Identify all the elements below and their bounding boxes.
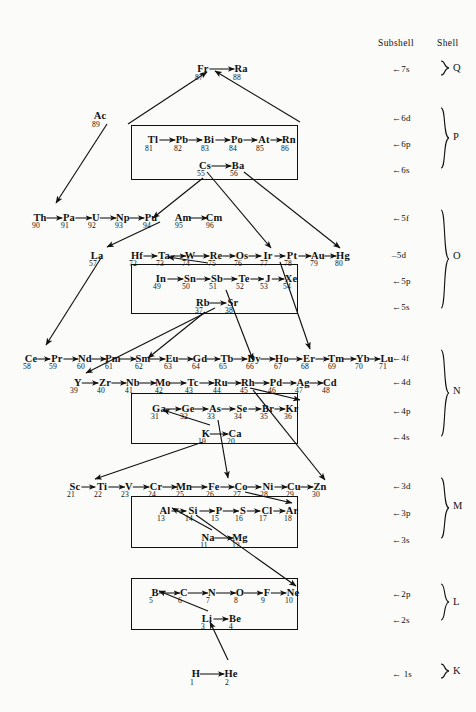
atomic-number: 60: [77, 363, 85, 371]
atomic-number: 78: [284, 260, 292, 268]
subshell-label-4p: ←4p: [392, 406, 411, 416]
shell-letter-N: N: [453, 385, 461, 396]
atomic-number: 4: [229, 623, 233, 631]
atomic-number: 33: [207, 413, 215, 421]
atomic-number: 63: [164, 363, 172, 371]
subshell-label-1s: ← 1s: [392, 669, 412, 679]
shell-brace-N: [440, 349, 452, 437]
atomic-number: 55: [197, 170, 205, 178]
atomic-number: 42: [155, 387, 163, 395]
atomic-number: 12: [232, 542, 240, 550]
shell-brace-K: [440, 663, 452, 679]
atomic-number: 68: [301, 363, 309, 371]
subshell-label-6s: ←6s: [392, 165, 410, 175]
atomic-number: 86: [281, 145, 289, 153]
atomic-number: 23: [121, 491, 129, 499]
atomic-number: 83: [201, 145, 209, 153]
atomic-number: 21: [67, 491, 75, 499]
atomic-number: 45: [240, 387, 248, 395]
atomic-number: 49: [153, 283, 161, 291]
subshell-label-6d: ←6d: [392, 113, 411, 123]
atomic-number: 17: [259, 515, 267, 523]
shell-letter-Q: Q: [453, 62, 461, 73]
atomic-number: 46: [268, 387, 276, 395]
subshell-label-3p: ←3p: [392, 508, 411, 518]
arrow-5f-to-6d: [56, 124, 107, 203]
atomic-number: 9: [261, 597, 265, 605]
atomic-number: 48: [322, 387, 330, 395]
atomic-number: 30: [312, 491, 320, 499]
shell-letter-O: O: [453, 250, 461, 261]
atomic-number: 51: [209, 283, 217, 291]
atomic-number: 25: [176, 491, 184, 499]
atomic-number: 1: [190, 679, 194, 687]
atomic-number: 75: [208, 260, 216, 268]
subshell-label-7s: ←7s: [392, 64, 410, 74]
atomic-number: 5: [149, 597, 153, 605]
atomic-number: 96: [206, 222, 214, 230]
subshell-label-5s: ←5s: [392, 302, 410, 312]
arrow-4f-to-5d: [46, 258, 101, 345]
atomic-number: 44: [213, 387, 221, 395]
atomic-number: 66: [246, 363, 254, 371]
atomic-number: 41: [125, 387, 133, 395]
atomic-number: 95: [175, 222, 183, 230]
atomic-number: 7: [206, 597, 210, 605]
atomic-number: 34: [234, 413, 242, 421]
shell-letter-P: P: [453, 131, 459, 142]
subshell-label-2s: ←2s: [392, 615, 410, 625]
atomic-number: 38: [225, 307, 233, 315]
atomic-number: 2: [225, 679, 229, 687]
atomic-number: 89: [92, 121, 100, 129]
atomic-number: 40: [97, 387, 105, 395]
subshell-label-6p: ←6p: [392, 139, 411, 149]
atomic-number: 43: [185, 387, 193, 395]
shell-column-header: Shell: [437, 38, 459, 48]
atomic-number: 65: [219, 363, 227, 371]
atomic-number: 28: [260, 491, 268, 499]
atomic-number: 57: [89, 260, 97, 268]
atomic-number: 67: [274, 363, 282, 371]
atomic-number: 29: [286, 491, 294, 499]
arrow-4s-to-3d: [95, 442, 203, 479]
shell-brace-O: [440, 209, 452, 309]
arrow-5d-to-6s: [207, 172, 271, 248]
atomic-number: 18: [284, 515, 292, 523]
subshell-column-header: Subshell: [378, 38, 414, 48]
subshell-label-5f: ←5f: [392, 213, 409, 223]
atomic-number: 27: [233, 491, 241, 499]
atomic-number: 91: [61, 222, 69, 230]
atomic-number: 32: [180, 413, 188, 421]
shell-letter-M: M: [453, 500, 463, 511]
diagram-canvas: Fr87Ra88Ac89Tl81Pb82Bi83Po84At85Rn86Cs55…: [0, 0, 476, 712]
subshell-label-4d: ←4d: [392, 377, 411, 387]
atomic-number: 15: [211, 515, 219, 523]
atomic-number: 64: [192, 363, 200, 371]
atomic-number: 10: [285, 597, 293, 605]
atomic-number: 70: [355, 363, 363, 371]
atomic-number: 81: [145, 145, 153, 153]
subshell-label-4f: ←4f: [392, 353, 409, 363]
atomic-number: 8: [234, 597, 238, 605]
box-2p-2s: [131, 578, 298, 630]
atomic-number: 53: [260, 283, 268, 291]
subshell-label-3s: ←3s: [392, 535, 410, 545]
atomic-number: 76: [234, 260, 242, 268]
atomic-number: 20: [227, 438, 235, 446]
atomic-number: 88: [233, 74, 241, 82]
subshell-label-3d: ←3d: [392, 481, 411, 491]
arrow-6s-to-5d: [244, 172, 340, 248]
atomic-number: 58: [23, 363, 31, 371]
subshell-label-5p: ←5p: [392, 276, 411, 286]
atomic-number: 82: [174, 145, 182, 153]
arrow-6p-to-7s: [215, 71, 300, 122]
atomic-number: 93: [115, 222, 123, 230]
subshell-label-4s: ←4s: [392, 432, 410, 442]
subshell-label-5d: –5d: [392, 250, 406, 260]
atomic-number: 47: [295, 387, 303, 395]
atomic-number: 73: [156, 260, 164, 268]
atomic-number: 87: [195, 74, 203, 82]
shell-brace-P: [440, 107, 452, 169]
atomic-number: 50: [182, 283, 190, 291]
atomic-number: 90: [32, 222, 40, 230]
